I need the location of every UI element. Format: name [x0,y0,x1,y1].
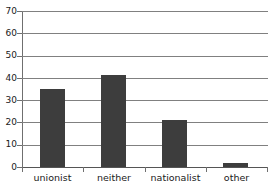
y-tick-label-0: 0 [0,163,17,172]
y-tick-label-10: 10 [0,140,17,149]
x-tick-label-neither: neither [83,172,145,184]
bar-nationalist [162,120,187,167]
y-tick-label-50: 50 [0,51,17,60]
y-tick-label-40: 40 [0,74,17,83]
plot-area [22,11,268,167]
bar-neither [101,75,126,167]
gridline-70 [22,11,268,12]
gridline-60 [22,33,268,34]
gridline-50 [22,56,268,57]
bar-unionist [40,89,65,167]
x-tick-mark-4 [267,167,268,172]
x-tick-label-other: other [206,172,267,184]
bar-other [223,163,248,167]
x-tick-label-unionist: unionist [22,172,83,184]
bar-chart: 70 60 50 40 30 20 10 0 unionist neither [0,0,271,191]
y-tick-label-60: 60 [0,29,17,38]
y-tick-label-20: 20 [0,118,17,127]
y-tick-label-30: 30 [0,96,17,105]
gridline-40 [22,78,268,79]
y-tick-label-70: 70 [0,7,17,16]
x-tick-label-nationalist: nationalist [145,172,206,184]
